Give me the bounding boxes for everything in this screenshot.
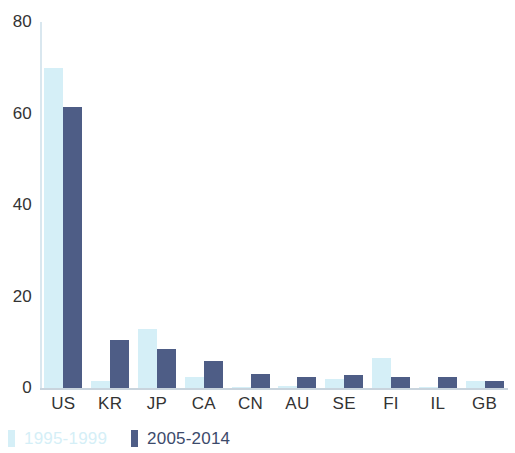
bar-kr-1995-1999[interactable]	[91, 381, 110, 388]
bar-group-au	[274, 22, 321, 388]
bar-group-fi	[368, 22, 415, 388]
bar-group-ca	[180, 22, 227, 388]
bar-ca-1995-1999[interactable]	[185, 377, 204, 388]
bar-jp-2005-2014[interactable]	[157, 349, 176, 388]
bar-group-se	[321, 22, 368, 388]
bar-il-1995-1999[interactable]	[419, 387, 438, 388]
bar-cn-1995-1999[interactable]	[232, 387, 251, 388]
bar-gb-2005-2014[interactable]	[485, 381, 504, 388]
legend-entry-2005-2014[interactable]: 2005-2014	[131, 430, 230, 447]
x-tick-label-jp: JP	[134, 394, 181, 414]
bar-group-us	[40, 22, 87, 388]
bar-group-kr	[87, 22, 134, 388]
legend-label-2005-2014: 2005-2014	[147, 430, 230, 447]
y-tick-label-80: 80	[0, 13, 32, 30]
bar-group-gb	[461, 22, 508, 388]
bar-se-2005-2014[interactable]	[344, 375, 363, 388]
y-tick-label-0: 0	[0, 379, 32, 396]
legend-swatch-icon-dark	[131, 430, 138, 447]
legend-entry-1995-1999[interactable]: 1995-1999	[8, 430, 107, 447]
x-tick-label-fi: FI	[368, 394, 415, 414]
x-tick-label-gb: GB	[461, 394, 508, 414]
y-tick-label-20: 20	[0, 288, 32, 305]
x-tick-label-ca: CA	[180, 394, 227, 414]
plot-area	[40, 22, 508, 388]
x-tick-label-il: IL	[414, 394, 461, 414]
bar-us-1995-1999[interactable]	[44, 68, 63, 388]
y-tick-label-60: 60	[0, 105, 32, 122]
bar-kr-2005-2014[interactable]	[110, 340, 129, 388]
bar-group-cn	[227, 22, 274, 388]
bar-group-il	[414, 22, 461, 388]
legend-swatch-icon-light	[8, 430, 15, 447]
bar-gb-1995-1999[interactable]	[466, 381, 485, 388]
bar-ca-2005-2014[interactable]	[204, 361, 223, 388]
x-tick-label-au: AU	[274, 394, 321, 414]
x-tick-label-kr: KR	[87, 394, 134, 414]
y-tick-label-40: 40	[0, 196, 32, 213]
bar-il-2005-2014[interactable]	[438, 377, 457, 388]
x-tick-label-cn: CN	[227, 394, 274, 414]
bar-au-2005-2014[interactable]	[297, 377, 316, 388]
bar-au-1995-1999[interactable]	[278, 386, 297, 388]
bar-group-jp	[134, 22, 181, 388]
bar-se-1995-1999[interactable]	[325, 379, 344, 388]
x-tick-label-us: US	[40, 394, 87, 414]
chart-legend: 1995-1999 2005-2014	[8, 430, 230, 447]
bar-cn-2005-2014[interactable]	[251, 374, 270, 388]
x-axis-line	[40, 388, 508, 390]
bar-us-2005-2014[interactable]	[63, 107, 82, 388]
legend-label-1995-1999: 1995-1999	[24, 430, 107, 447]
x-tick-label-se: SE	[321, 394, 368, 414]
bar-jp-1995-1999[interactable]	[138, 329, 157, 388]
bar-fi-1995-1999[interactable]	[372, 358, 391, 388]
bar-chart: 020406080 USKRJPCACNAUSEFIILGB 1995-1999…	[0, 0, 515, 453]
bar-fi-2005-2014[interactable]	[391, 377, 410, 388]
